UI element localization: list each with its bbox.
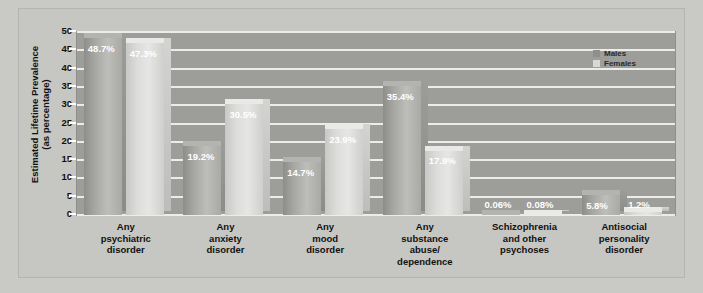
x-axis-category-line: personality [574, 233, 674, 245]
bar-side-face [562, 210, 569, 212]
y-axis-tick-label: 10 [38, 171, 72, 182]
x-axis-category-line: substance [375, 233, 475, 245]
x-axis-category-line: and other [475, 233, 575, 245]
bar-group: 19.2%30.5% [177, 32, 277, 215]
bar-data-label: 14.7% [287, 167, 314, 178]
y-axis-tick-mark [69, 48, 76, 50]
x-axis-category-line: disorder [176, 244, 276, 256]
y-axis-tick-label: 30 [38, 98, 72, 109]
y-axis-tick-mark [69, 158, 76, 160]
y-axis-tick-mark [69, 176, 76, 178]
bar-top-face [84, 33, 122, 38]
bar-side-face [164, 38, 171, 211]
y-axis-tick-mark [69, 195, 76, 197]
bar-top-face [524, 210, 562, 215]
bar-top-face [425, 146, 463, 151]
bar-series-container: 48.7%47.3%19.2%30.5%14.7%23.9%35.4%17.9%… [77, 32, 675, 215]
bar-top-face [383, 81, 421, 86]
chart-legend: Males Females [593, 48, 667, 68]
bar-front-face [383, 85, 421, 215]
bar-data-label: 19.2% [187, 151, 214, 162]
bar-group: 14.7%23.9% [276, 32, 376, 215]
bar-data-label: 47.3% [130, 48, 157, 59]
x-axis-category-label: Schizophreniaand otherpsychoses [475, 221, 575, 256]
x-axis-category-line: mood [275, 233, 375, 245]
bar-data-label: 35.4% [387, 91, 414, 102]
bar-side-face [363, 124, 370, 211]
y-axis-tick-mark [69, 140, 76, 142]
x-axis-category-line: anxiety [176, 233, 276, 245]
x-axis-category-label: Anysubstanceabuse/dependence [375, 221, 475, 267]
x-axis-category-line: disorder [76, 244, 176, 256]
x-axis-category-line: Schizophrenia [475, 221, 575, 233]
x-axis-labels: AnypsychiatricdisorderAnyanxietydisorder… [76, 221, 676, 281]
legend-swatch-males-icon [593, 50, 600, 57]
y-axis-tick-label: 50 [38, 25, 72, 36]
y-axis-tick-mark [69, 67, 76, 69]
legend-label-males: Males [604, 49, 626, 58]
bar-top-face [325, 124, 363, 129]
bar-front-face [84, 37, 122, 215]
x-axis-category-line: disorder [275, 244, 375, 256]
bar-data-label: 23.9% [329, 134, 356, 145]
bar-top-face [183, 141, 221, 146]
bar-group: 0.06%0.08% [476, 32, 576, 215]
x-axis-category-line: Antisocial [574, 221, 674, 233]
x-axis-category-label: Anyanxietydisorder [176, 221, 276, 256]
chart-page: Estimated Lifetime Prevalence (as percen… [0, 0, 703, 293]
x-axis-category-line: psychoses [475, 244, 575, 256]
bar-male[interactable] [84, 37, 122, 215]
y-axis: 05101520253035404550 [39, 31, 76, 216]
bar-data-label: 17.9% [429, 155, 456, 166]
bar-side-face [662, 207, 669, 211]
legend-swatch-females-icon [593, 60, 600, 67]
bar-data-label: 1.2% [628, 199, 650, 210]
bar-side-face [263, 99, 270, 211]
bar-top-face [126, 38, 164, 43]
x-axis-category-label: Anymooddisorder [275, 221, 375, 256]
x-axis-category-label: Anypsychiatricdisorder [76, 221, 176, 256]
x-axis-category-line: abuse/ [375, 244, 475, 256]
y-axis-tick-mark [69, 122, 76, 124]
y-axis-tick-label: 40 [38, 62, 72, 73]
bar-data-label: 48.7% [88, 43, 115, 54]
bar-female[interactable] [624, 211, 662, 215]
bar-side-face [463, 146, 470, 212]
bar-group: 48.7%47.3% [77, 32, 177, 215]
y-axis-tick-label: 25 [38, 117, 72, 128]
y-axis-tick-label: 20 [38, 135, 72, 146]
y-axis-tick-label: 0 [38, 208, 72, 219]
y-axis-tick-label: 45 [38, 43, 72, 54]
x-axis-category-line: disorder [574, 244, 674, 256]
bar-top-face [482, 210, 520, 215]
x-axis-category-line: Any [76, 221, 176, 233]
bar-group: 35.4%17.9% [376, 32, 476, 215]
y-axis-tick-mark [69, 30, 76, 32]
bar-data-label: 0.06% [484, 199, 511, 210]
x-axis-category-line: Any [176, 221, 276, 233]
x-axis-category-line: Any [275, 221, 375, 233]
x-axis-category-line: Any [375, 221, 475, 233]
legend-item-males: Males [593, 48, 667, 58]
bar-male[interactable] [383, 85, 421, 215]
y-axis-tick-label: 5 [38, 190, 72, 201]
chart-figure: Estimated Lifetime Prevalence (as percen… [18, 8, 685, 278]
y-axis-tick-mark [69, 103, 76, 105]
y-axis-tick-label: 35 [38, 80, 72, 91]
bar-top-face [582, 190, 620, 195]
legend-item-females: Females [593, 58, 667, 68]
bar-data-label: 5.8% [586, 200, 608, 211]
bar-female[interactable] [524, 214, 562, 216]
plot-area: 48.7%47.3%19.2%30.5%14.7%23.9%35.4%17.9%… [76, 31, 676, 216]
y-axis-tick-mark [69, 213, 76, 215]
x-axis-category-label: Antisocialpersonalitydisorder [574, 221, 674, 256]
bar-front-face [126, 42, 164, 215]
y-axis-tick-mark [69, 85, 76, 87]
bar-female[interactable] [126, 42, 164, 215]
bar-data-label: 0.08% [526, 199, 553, 210]
bar-top-face [283, 157, 321, 162]
bar-data-label: 30.5% [229, 109, 256, 120]
x-axis-category-line: dependence [375, 256, 475, 268]
bar-male[interactable] [482, 214, 520, 216]
y-axis-tick-label: 15 [38, 153, 72, 164]
